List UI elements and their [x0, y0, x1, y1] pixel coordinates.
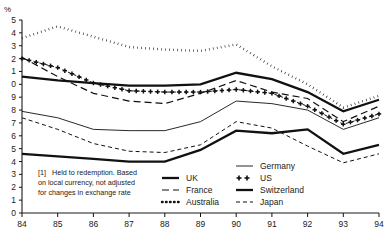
x-tick-label: 91 [267, 219, 277, 229]
series-marker-plus [41, 62, 45, 66]
legend-label-australia: Australia [186, 197, 219, 207]
legend-label-uk: UK [186, 173, 198, 183]
series-marker-plus [355, 118, 359, 122]
series-marker-plus [27, 58, 31, 62]
series-line-france [22, 57, 379, 121]
series-marker-plus [155, 90, 159, 94]
series-marker-plus [48, 64, 52, 68]
chart-container: % 5432109876543210 848586878889909192939… [0, 0, 385, 239]
y-tick-label: 2 [11, 54, 16, 64]
x-axis-ticks: 8485868788899091929394 [17, 213, 384, 229]
y-tick-label: 3 [11, 169, 16, 179]
legend-item-australia[interactable]: Australia [186, 197, 219, 207]
legend: UKFranceAustraliaGermanyUSSwitzerlandJap… [162, 161, 304, 207]
series-marker-plus [227, 88, 231, 92]
footnote-block: [1] Held to redemption. Based on local c… [38, 168, 137, 197]
legend-label-germany: Germany [260, 161, 296, 171]
series-marker-plus [305, 104, 309, 108]
x-tick-label: 87 [124, 219, 134, 229]
series-marker-plus [377, 112, 381, 116]
series-marker-plus [177, 90, 181, 94]
series-marker-plus [241, 88, 245, 92]
series-marker-plus [334, 118, 338, 122]
series-marker-plus [284, 96, 288, 100]
y-tick-label: 2 [11, 182, 16, 192]
series-marker-plus [298, 101, 302, 105]
series-marker-plus [213, 89, 217, 93]
series-marker-plus [348, 120, 352, 124]
series-marker-plus [248, 89, 252, 93]
series-marker-plus [234, 87, 238, 91]
series-marker-plus [134, 89, 138, 93]
series-marker-plus [291, 99, 295, 103]
series-marker-plus [341, 122, 345, 126]
series-marker-plus [320, 111, 324, 115]
series-marker-plus [148, 89, 152, 93]
line-chart: % 5432109876543210 848586878889909192939… [0, 0, 385, 239]
y-tick-label: 1 [11, 66, 16, 76]
footnote-line-1: Held to redemption. Based [52, 168, 137, 177]
series-marker-plus [77, 75, 81, 79]
legend-item-uk[interactable]: UK [186, 173, 198, 183]
footnote-line-3: for changes in exchange rate [38, 188, 131, 197]
x-tick-label: 94 [374, 219, 384, 229]
series-marker-plus [141, 89, 145, 93]
series-marker-plus [113, 85, 117, 89]
series-marker-plus [56, 65, 60, 69]
y-tick-label: 5 [11, 144, 16, 154]
series-marker-plus [120, 87, 124, 91]
series-marker-plus [327, 115, 331, 119]
x-tick-label: 88 [160, 219, 170, 229]
y-tick-label: 6 [11, 131, 16, 141]
y-tick-label: 5 [11, 15, 16, 25]
series-marker-plus [363, 116, 367, 120]
series-marker-plus [220, 88, 224, 92]
y-tick-label: 3 [11, 41, 16, 51]
x-tick-label: 93 [339, 219, 349, 229]
series-marker-plus [313, 108, 317, 112]
y-tick-label: 4 [11, 157, 16, 167]
series-marker-plus [163, 90, 167, 94]
series-marker-plus [255, 90, 259, 94]
series-marker-plus [70, 72, 74, 76]
legend-item-germany[interactable]: Germany [260, 161, 296, 171]
x-tick-label: 85 [53, 219, 63, 229]
y-tick-label: 0 [11, 79, 16, 89]
legend-item-switzerland[interactable]: Switzerland [260, 185, 304, 195]
series-line-switzerland [22, 129, 379, 161]
legend-item-us[interactable]: US [237, 173, 273, 183]
series-marker-plus [277, 94, 281, 98]
x-tick-label: 89 [196, 219, 206, 229]
footnote-line-2: on local currency, not adjusted [38, 178, 135, 187]
footnote-marker: [1] [38, 168, 46, 177]
y-tick-label: 7 [11, 118, 16, 128]
x-tick-label: 84 [17, 219, 27, 229]
legend-label-switzerland: Switzerland [260, 185, 304, 195]
series-marker-plus [63, 68, 67, 72]
x-tick-label: 90 [231, 219, 241, 229]
series-marker-plus [370, 114, 374, 118]
legend-label-us: US [260, 173, 272, 183]
legend-item-france[interactable]: France [186, 185, 213, 195]
y-axis-unit-label: % [4, 5, 11, 14]
y-axis-ticks: 5432109876543210 [11, 15, 22, 218]
legend-label-france: France [186, 185, 213, 195]
series-line-germany [22, 101, 379, 131]
series-marker-plus [91, 81, 95, 85]
y-tick-label: 8 [11, 105, 16, 115]
series-marker-plus [263, 90, 267, 94]
series-marker-plus [191, 90, 195, 94]
x-tick-label: 86 [89, 219, 99, 229]
series-marker-plus [184, 90, 188, 94]
series-marker-plus [20, 56, 24, 60]
legend-item-japan[interactable]: Japan [260, 197, 283, 207]
series-group [20, 26, 381, 162]
x-tick-label: 92 [303, 219, 313, 229]
y-tick-label: 4 [11, 28, 16, 38]
legend-label-japan: Japan [260, 197, 283, 207]
series-marker-plus [127, 89, 131, 93]
y-tick-label: 9 [11, 92, 16, 102]
series-line-australia [22, 26, 379, 107]
y-tick-label: 0 [11, 208, 16, 218]
y-tick-label: 1 [11, 195, 16, 205]
